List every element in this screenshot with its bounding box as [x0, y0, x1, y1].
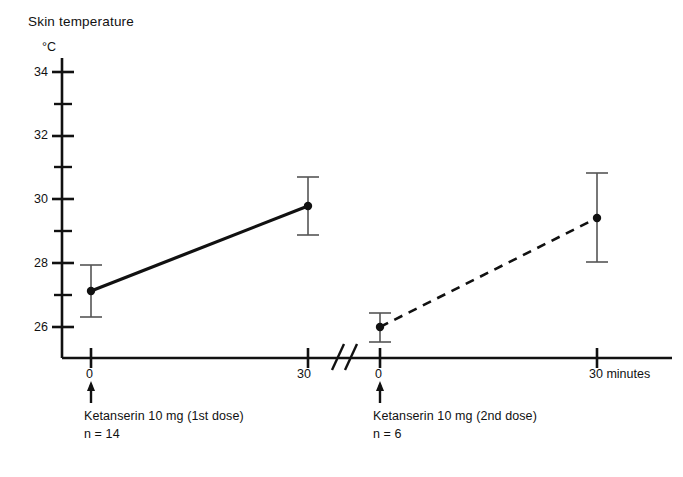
series-2-line — [380, 218, 597, 327]
data-point-s2-0 — [376, 323, 384, 331]
data-point-s2-30 — [593, 214, 601, 222]
series-1st-dose — [80, 177, 319, 317]
dose-arrow-2-icon — [376, 381, 384, 403]
data-point-s1-30 — [304, 202, 312, 210]
dose-arrow-1-icon — [87, 381, 95, 403]
series-1-line — [91, 206, 308, 291]
data-point-s1-0 — [87, 287, 95, 295]
figure-root: Skin temperature °C 34 32 30 28 26 0 30 … — [0, 0, 683, 477]
plot-canvas — [0, 0, 683, 477]
series-2nd-dose — [369, 173, 608, 342]
y-axis — [52, 58, 74, 358]
x-axis — [62, 344, 672, 370]
